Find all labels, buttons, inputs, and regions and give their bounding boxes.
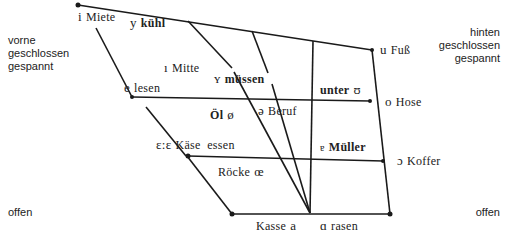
example-word: unter [320,83,350,97]
ipa-symbol: o [385,94,392,109]
example-word: Müller [329,140,366,154]
label-line: hinten [439,26,500,39]
example-word: Beruf [268,104,297,118]
vowel-schwa: əBeruf [258,103,297,119]
point-A [388,212,393,217]
example-word: Koffer [407,154,441,168]
vowel-U: unterʊ [320,82,361,98]
example-word: müssen [225,72,265,86]
ipa-symbol: ɑ [320,218,327,233]
example-word: Kasse [256,219,286,233]
point-i [76,3,81,8]
top-edge [78,5,372,50]
right-edge [372,50,390,214]
vowel-Y: ʏmüssen [214,71,265,87]
vowel-e: elesen [124,80,160,96]
ipa-symbol: i [78,9,82,24]
label-line: offen [8,206,32,219]
example-word: rasen [331,219,358,233]
example-word: Hose [396,95,422,109]
vowel-i: iMiete [78,9,115,25]
vowel-o: oHose [385,94,422,110]
point-open-o [381,159,385,163]
center-line-Y [252,31,268,73]
ipa-symbol: ø [227,107,234,122]
vowel-y: ykühl [130,15,165,31]
ipa-symbol: ə [258,103,264,118]
ipa-symbol: ɐ [320,142,325,153]
ipa-symbol: y [130,15,137,30]
ipa-symbol: ʏ [214,71,221,86]
vowel-E: ɛ:ɛKäse essen [156,137,235,153]
label-line: geschlossen [8,47,69,60]
vowel-trapezoid [0,0,508,236]
example-word: Fuß [391,43,411,57]
mid-low-line [188,156,383,161]
ipa-symbol: ɛ:ɛ [156,137,171,152]
ipa-symbol: ʊ [354,82,361,97]
label-line: offen [476,206,500,219]
label-line: gespannt [8,60,69,73]
label-open-left: offen [8,206,32,219]
ipa-symbol: ɔ [397,153,403,168]
vowel-er: ɐMüller [320,140,366,155]
center-line-I-low [234,72,310,213]
example-word: Öl [210,108,223,122]
label-front-closed-tense: vorne geschlossen gespannt [8,34,69,73]
vowel-u: uFuß [380,42,410,58]
vowel-OE: Röckeœ [218,164,264,180]
vowel-A: ɑrasen [320,218,358,234]
label-back-closed-tense: hinten geschlossen gespannt [439,26,500,65]
example-word: Röcke [218,165,250,179]
vowel-a: Kassea [256,218,296,234]
ipa-symbol: u [380,42,387,57]
ipa-symbol: œ [254,164,264,179]
vowel-oe: Ölø [210,107,234,123]
vowel-I: ıMitte [164,60,199,76]
point-o [368,99,372,103]
example-word: Miete [86,10,116,24]
center-line-U [310,41,313,213]
label-line: vorne [8,34,69,47]
ipa-symbol: e [124,80,130,95]
example-word: Käse essen [175,138,234,152]
point-u [370,48,374,52]
vowel-O: ɔKoffer [397,153,441,169]
example-word: kühl [141,16,166,30]
label-line: geschlossen [439,39,500,52]
example-word: lesen [134,81,160,95]
label-open-right: offen [476,206,500,219]
label-line: gespannt [439,52,500,65]
point-a [230,212,235,217]
ipa-symbol: ı [164,60,168,75]
example-word: Mitte [172,61,200,75]
ipa-symbol: a [290,218,296,233]
point-epsilon [186,154,191,159]
